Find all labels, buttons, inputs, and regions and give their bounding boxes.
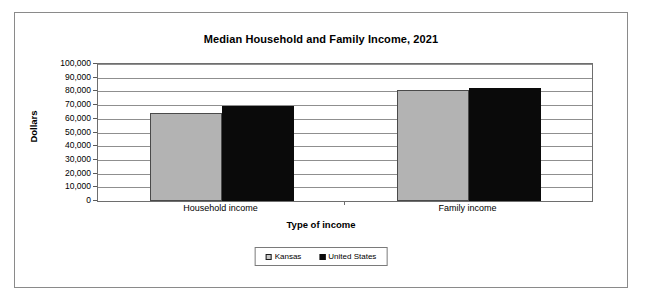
y-axis-tick-label: 80,000 [31,86,91,95]
chart-title: Median Household and Family Income, 2021 [15,33,627,45]
y-axis-tick-label: 70,000 [31,100,91,109]
y-axis-tick-label: 60,000 [31,114,91,123]
x-axis-category-label: Household income [183,203,258,213]
y-axis-tick-label: 30,000 [31,155,91,164]
gridline [98,64,592,65]
legend-item-united-states: United States [319,252,376,261]
bar-kansas-household-income [150,113,222,201]
bar-kansas-family-income [397,90,469,201]
bar-united-states-household-income [222,106,294,201]
x-axis-title: Type of income [15,219,627,230]
legend-item-kansas: Kansas [266,252,302,261]
x-axis-category-labels: Household incomeFamily income [97,203,593,217]
y-axis-tick-label: 10,000 [31,182,91,191]
legend-swatch-icon [266,254,272,260]
legend-label: Kansas [275,252,302,261]
bar-united-states-family-income [469,88,541,201]
gridline [98,78,592,79]
plot-area [97,63,593,202]
y-axis-tick-label: 20,000 [31,168,91,177]
chart-frame: Median Household and Family Income, 2021… [14,12,628,288]
chart-legend: Kansas United States [255,247,388,266]
legend-label: United States [328,252,376,261]
y-axis-tick-label: 0 [31,196,91,205]
x-axis-category-label: Family income [438,203,496,213]
x-axis-tick-mark [344,201,345,205]
y-axis-tick-labels: 100,00090,00080,00070,00060,00050,00040,… [29,63,91,200]
y-axis-tick-label: 100,000 [31,59,91,68]
legend-swatch-icon [319,254,325,260]
y-axis-tick-label: 40,000 [31,141,91,150]
y-axis-tick-label: 90,000 [31,72,91,81]
y-axis-tick-label: 50,000 [31,127,91,136]
